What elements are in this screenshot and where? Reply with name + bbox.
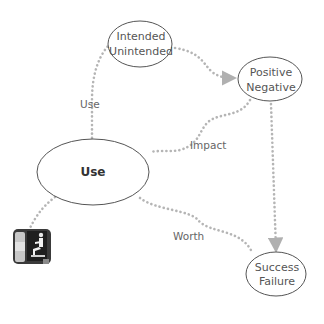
node-success-label-2: Failure: [259, 275, 295, 288]
node-intended-label-2: Unintended: [109, 45, 173, 58]
edge-use-icon: [30, 197, 55, 228]
edge-label-impact: Impact: [190, 139, 226, 151]
node-positive-label-1: Positive: [250, 66, 293, 79]
node-use[interactable]: Use: [37, 139, 149, 205]
node-use-label: Use: [80, 165, 105, 179]
node-intended-label-1: Intended: [116, 30, 165, 43]
node-intended-unintended[interactable]: Intended Unintended: [108, 21, 173, 67]
node-positive-negative[interactable]: Positive Negative: [238, 57, 302, 101]
edge-intended-positive: [175, 48, 234, 78]
node-success-label-1: Success: [255, 261, 300, 274]
person-at-computer-icon: [13, 229, 51, 264]
node-positive-label-2: Negative: [246, 81, 296, 94]
edge-use-success: [140, 198, 252, 252]
diagram-canvas: Use Impact Worth Use Intended Unintended…: [0, 0, 324, 324]
edge-positive-success: [271, 104, 276, 250]
edge-use-intended: [92, 46, 108, 138]
edge-label-worth: Worth: [173, 230, 204, 242]
edge-label-use: Use: [80, 98, 100, 110]
node-success-failure[interactable]: Success Failure: [246, 252, 306, 296]
